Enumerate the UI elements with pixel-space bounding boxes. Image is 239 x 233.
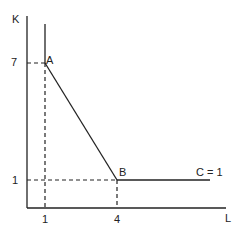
point-a-label: A <box>46 54 54 66</box>
y-axis-label: K <box>12 13 20 25</box>
x-tick-4: 4 <box>114 213 120 225</box>
isocost-diagram: K L 7 1 1 4 A B C = 1 <box>0 0 239 233</box>
y-tick-1: 1 <box>12 174 18 186</box>
diagonal-curve-segment <box>45 63 117 180</box>
y-tick-7: 7 <box>11 56 17 68</box>
diagram-svg: K L 7 1 1 4 A B C = 1 <box>0 0 239 233</box>
point-b-label: B <box>119 166 126 178</box>
x-tick-1: 1 <box>42 213 48 225</box>
x-axis-label: L <box>225 212 231 224</box>
curve-label: C = 1 <box>196 166 223 178</box>
